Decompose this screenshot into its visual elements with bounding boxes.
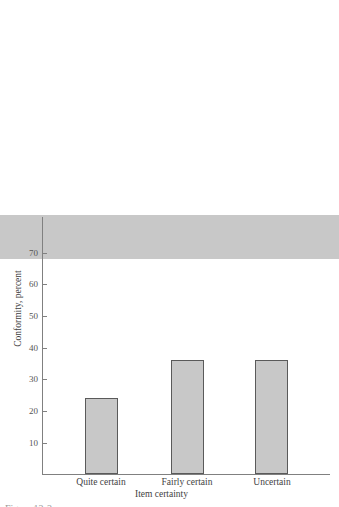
y-tick-mark-70 [43, 253, 47, 254]
bar-quite-certain[interactable] [85, 398, 118, 474]
y-tick-mark-10 [43, 443, 47, 444]
x-category-label-quite-certain: Quite certain [61, 477, 141, 488]
x-axis-line [42, 474, 330, 475]
figure-caption: Figure 12-2 [5, 503, 52, 507]
y-tick-label-10: 10 [0, 438, 38, 448]
x-category-label-fairly-certain: Fairly certain [147, 477, 227, 488]
y-axis-line [42, 217, 43, 475]
y-tick-mark-30 [43, 379, 47, 380]
y-tick-label-20: 20 [0, 406, 38, 416]
bar-fairly-certain[interactable] [171, 360, 204, 474]
y-tick-mark-20 [43, 411, 47, 412]
y-tick-mark-50 [43, 316, 47, 317]
y-tick-mark-60 [43, 284, 47, 285]
bar-chart-figure: 70 60 50 40 30 20 10 Quite certain Fairl… [0, 215, 339, 259]
y-axis-title: Conformity, percent [13, 239, 24, 379]
bar-uncertain[interactable] [255, 360, 288, 474]
x-category-label-uncertain: Uncertain [236, 477, 308, 488]
y-tick-mark-40 [43, 348, 47, 349]
x-axis-title: Item certainty [0, 489, 339, 500]
